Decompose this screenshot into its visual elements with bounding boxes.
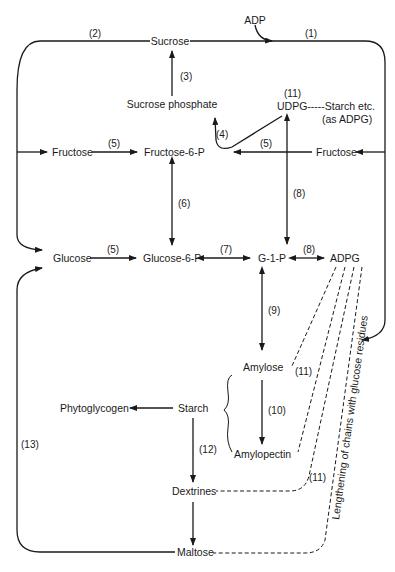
edge-9-label: (9) <box>268 305 280 316</box>
edge-2-label: (2) <box>89 28 101 39</box>
left-loop-line <box>17 90 42 250</box>
edge-3-label: (3) <box>180 71 192 82</box>
edge-12-label: (12) <box>199 444 217 455</box>
edge-5b-label: (5) <box>107 244 119 255</box>
node-phytoglycogen: Phytoglycogen <box>60 402 129 414</box>
node-amylopectin: Amylopectin <box>234 448 291 460</box>
node-adp: ADP <box>244 14 266 26</box>
annotation-lengthening: Lengthening of chains with glucose resid… <box>329 315 370 521</box>
node-udpg: UDPG-----Starch etc. <box>277 100 375 112</box>
edge-11b-label: (11) <box>295 366 312 377</box>
edge-6-label: (6) <box>178 198 190 209</box>
node-fructose-6p: Fructose-6-P <box>144 146 205 158</box>
edge-7-label: (7) <box>220 244 232 255</box>
node-starch: Starch <box>178 402 209 414</box>
node-dextrines: Dextrines <box>172 485 216 497</box>
node-glucose: Glucose <box>53 252 92 264</box>
dash-adpg-amylose <box>292 267 336 366</box>
dash-adpg-amylopectin <box>298 267 345 452</box>
edge-4-label: (4) <box>216 129 228 140</box>
edge-1-label: (1) <box>305 28 317 39</box>
edge-11a-label: (11) <box>284 88 301 99</box>
edge-2-line <box>17 41 150 90</box>
node-sucrose: Sucrose <box>151 35 190 47</box>
node-sucrose-phosphate: Sucrose phosphate <box>127 98 218 110</box>
edge-5c-label: (5) <box>260 138 272 149</box>
edge-5a-label: (5) <box>108 138 120 149</box>
edge-11c-label: (11) <box>309 472 326 483</box>
node-maltose: Maltose <box>177 546 214 558</box>
edge-8b-label: (8) <box>303 244 315 255</box>
node-fructose-left: Fructose <box>52 146 93 158</box>
node-fructose-right: Fructose <box>316 146 357 158</box>
node-amylose: Amylose <box>243 361 283 373</box>
adp-arrow <box>255 25 272 41</box>
edge-13-label: (13) <box>21 439 39 450</box>
node-udpg-note: (as ADPG) <box>322 113 372 125</box>
edge-10-label: (10) <box>268 405 286 416</box>
node-g1p: G-1-P <box>258 252 286 264</box>
brace <box>224 375 232 452</box>
edge-8a-label: (8) <box>293 188 305 199</box>
pathway-diagram: ADP Sucrose (2) (1) (3) Sucrose phosphat… <box>0 0 395 572</box>
node-adpg: ADPG <box>330 252 360 264</box>
node-glucose-6p: Glucose-6-P <box>143 252 201 264</box>
